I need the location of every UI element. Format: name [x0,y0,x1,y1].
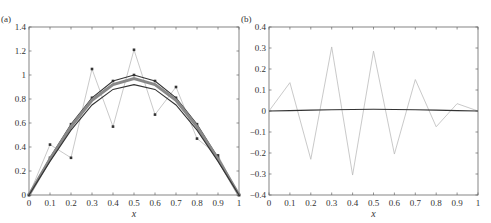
figure: 00.10.20.30.40.50.60.70.80.9100.20.40.60… [0,0,491,223]
data-marker [175,86,178,89]
x-axis-label: x [131,208,137,219]
x-tick-label: 0.3 [326,198,338,208]
x-tick-label: 0.8 [431,198,443,208]
x-tick-label: 1 [237,198,242,208]
y-tick-label: 1 [22,70,27,80]
y-tick-label: 0.4 [255,22,267,32]
x-axis-label: x [370,208,376,219]
y-tick-label: 0.1 [255,85,266,95]
y-tick-label: 0.2 [255,64,266,74]
y-tick-label: −0.3 [250,169,267,179]
x-tick-label: 0.1 [44,198,55,208]
panel-label: (a) [1,14,11,24]
x-tick-label: 0.7 [170,198,182,208]
panel-label: (b) [241,14,252,24]
data-marker [154,113,157,116]
y-tick-label: −0.2 [250,148,266,158]
data-marker [196,137,199,140]
x-tick-label: 0.6 [389,198,401,208]
series-line [29,75,239,195]
y-tick-label: 0.6 [15,118,27,128]
x-tick-label: 0.7 [410,198,422,208]
series-line [269,47,478,175]
x-tick-label: 0.6 [149,198,161,208]
y-tick-label: 0 [22,190,27,200]
series-line [29,85,239,195]
series-line [269,109,478,111]
panel-b: 00.10.20.30.40.50.60.70.80.91−0.4−0.3−0.… [241,14,480,219]
plot-frame [29,27,239,195]
x-tick-label: 0 [267,198,272,208]
x-tick-label: 0.5 [128,198,140,208]
x-tick-label: 0 [27,198,32,208]
x-tick-label: 0.3 [86,198,98,208]
y-tick-label: −0.1 [250,127,266,137]
y-tick-label: 0 [262,106,267,116]
y-tick-label: 0.3 [255,43,267,53]
x-tick-label: 0.8 [191,198,203,208]
x-tick-label: 1 [476,198,481,208]
data-marker [112,80,115,83]
y-tick-label: 1.2 [15,46,26,56]
data-marker [133,49,136,52]
x-tick-label: 0.5 [368,198,380,208]
x-tick-label: 0.9 [212,198,224,208]
data-marker [49,143,52,146]
y-tick-label: 0.8 [15,94,27,104]
y-tick-label: 1.4 [15,22,27,32]
data-marker [70,157,73,160]
data-marker [154,80,157,83]
data-marker [112,125,115,128]
data-marker [133,74,136,77]
x-tick-label: 0.2 [65,198,76,208]
x-tick-label: 0.4 [347,198,359,208]
panel-a: 00.10.20.30.40.50.60.70.80.9100.20.40.60… [1,14,241,219]
y-tick-label: 0.4 [15,142,27,152]
series-line [29,50,239,195]
data-marker [91,68,94,71]
y-tick-label: 0.2 [15,166,26,176]
x-tick-label: 0.2 [305,198,316,208]
x-tick-label: 0.4 [107,198,119,208]
series-line [29,79,239,195]
x-tick-label: 0.1 [284,198,295,208]
x-tick-label: 0.9 [451,198,463,208]
y-tick-label: −0.4 [250,190,267,200]
